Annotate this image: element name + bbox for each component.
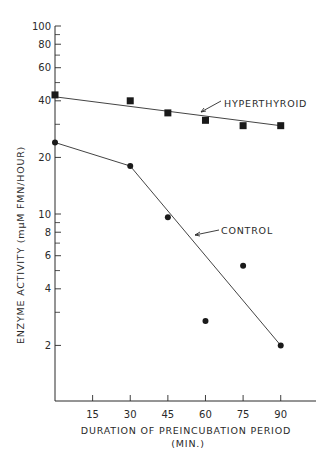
axes bbox=[55, 26, 316, 401]
y-tick-label: 80 bbox=[38, 39, 51, 50]
hyperthyroid-arrow-icon bbox=[201, 101, 221, 112]
circle-marker-icon bbox=[202, 318, 208, 324]
y-tick-label: 100 bbox=[32, 21, 51, 32]
square-marker-icon bbox=[127, 97, 134, 104]
y-axis-ticks: 24681020406080100 bbox=[32, 21, 61, 351]
circle-marker-icon bbox=[165, 214, 171, 220]
square-marker-icon bbox=[202, 117, 209, 124]
data-markers bbox=[52, 91, 285, 348]
x-tick-label: 90 bbox=[274, 409, 287, 420]
x-tick-label: 15 bbox=[86, 409, 99, 420]
x-axis-unit: (MIN.) bbox=[171, 438, 204, 449]
x-tick-label: 45 bbox=[161, 409, 174, 420]
fit-lines bbox=[55, 97, 281, 346]
y-tick-label: 6 bbox=[45, 250, 51, 261]
y-tick-label: 20 bbox=[38, 152, 51, 163]
control-fit-line bbox=[55, 143, 281, 346]
square-marker-icon bbox=[277, 122, 284, 129]
y-tick-label: 10 bbox=[38, 209, 51, 220]
y-axis-label: ENZYME ACTIVITY (mμM FMN/HOUR) bbox=[15, 146, 26, 344]
square-marker-icon bbox=[240, 122, 247, 129]
y-tick-label: 2 bbox=[45, 340, 51, 351]
y-tick-label: 60 bbox=[38, 62, 51, 73]
chart: 24681020406080100 153045607590 ENZYME AC… bbox=[0, 0, 334, 465]
control-label: CONTROL bbox=[221, 225, 273, 236]
circle-marker-icon bbox=[127, 163, 133, 169]
circle-marker-icon bbox=[240, 263, 246, 269]
circle-marker-icon bbox=[52, 140, 58, 146]
x-tick-label: 30 bbox=[124, 409, 137, 420]
hyperthyroid-label: HYPERTHYROID bbox=[224, 98, 307, 109]
x-tick-label: 60 bbox=[199, 409, 212, 420]
x-axis-ticks: 153045607590 bbox=[86, 395, 287, 420]
square-marker-icon bbox=[164, 109, 171, 116]
x-tick-label: 75 bbox=[237, 409, 250, 420]
x-axis-label: DURATION OF PREINCUBATION PERIOD bbox=[81, 425, 291, 436]
y-tick-label: 4 bbox=[45, 283, 51, 294]
y-tick-label: 40 bbox=[38, 95, 51, 106]
circle-marker-icon bbox=[278, 342, 284, 348]
y-tick-label: 8 bbox=[45, 227, 51, 238]
square-marker-icon bbox=[52, 91, 59, 98]
